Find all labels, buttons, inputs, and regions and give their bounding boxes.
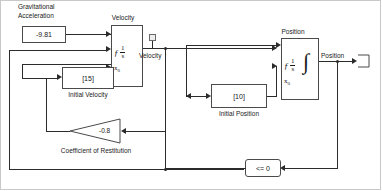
position-transfer-function: 1 s <box>290 58 296 73</box>
velocity-denominator: s <box>120 52 125 60</box>
gravity-constant-value: -9.81 <box>36 31 52 38</box>
wire-velocity-to-terminator <box>152 40 153 49</box>
gravity-block-label-line1: Gravitational <box>18 3 84 11</box>
initial-velocity-label: Initial Velocity <box>54 91 122 99</box>
wire-velocity-branch-down <box>165 48 166 170</box>
position-initial-condition-port-label: x0 <box>284 77 290 86</box>
arrowhead-velocity-in2 <box>106 46 111 52</box>
velocity-initial-condition-port-label: x0 <box>114 64 120 73</box>
position-outport-icon[interactable] <box>357 54 371 69</box>
velocity-terminator-icon[interactable] <box>149 34 156 41</box>
wire-position-top-input-riser <box>186 45 187 97</box>
gravity-block-label-line2: Acceleration <box>18 12 84 20</box>
velocity-transfer-function: 1 s <box>120 45 126 60</box>
wire-outer-left-loop-bottom <box>9 169 165 170</box>
coefficient-of-restitution-value: -0.8 <box>99 127 110 134</box>
simulink-diagram-canvas: Gravitational Acceleration -9.81 Velocit… <box>0 0 382 191</box>
wire-position-to-compare <box>285 168 338 169</box>
ground-compare-block[interactable]: <= 0 <box>245 159 281 177</box>
velocity-signal-label: Velocity <box>139 52 161 59</box>
wire-left-feedback-vertical <box>22 64 23 79</box>
velocity-numerator: 1 <box>120 45 126 52</box>
position-integrator-label: Position <box>269 28 317 36</box>
initial-position-value: [10] <box>233 93 245 100</box>
wire-gain-input <box>126 131 165 132</box>
position-denominator: s <box>290 65 295 73</box>
wire-gravity-to-velocity <box>66 34 111 35</box>
initial-position-label: Initial Position <box>203 110 275 118</box>
arrowhead-initial-velocity-in <box>57 74 62 80</box>
coefficient-of-restitution-gain-block[interactable] <box>69 118 121 144</box>
position-integral-curve-icon: ∫ <box>303 52 309 72</box>
wire-compare-output-to-bus <box>165 168 221 169</box>
wire-position-output <box>319 61 337 62</box>
position-integrator-symbol: ƒ 1 s <box>284 58 296 73</box>
ground-compare-value: <= 0 <box>256 165 270 172</box>
wire-to-initial-velocity <box>22 78 58 79</box>
velocity-integrator-label: Velocity <box>99 14 147 22</box>
wire-gain-output <box>46 131 70 132</box>
wire-initial-position-output <box>267 96 276 97</box>
wire-velocity-output <box>143 48 165 49</box>
wire-outer-left-loop-top <box>9 50 107 51</box>
coefficient-of-restitution-label: Coefficient of Restitution <box>37 147 155 155</box>
wire-bottom-feedback-bus <box>165 169 244 170</box>
velocity-integrator-symbol: ƒ 1 s <box>114 45 126 60</box>
initial-velocity-constant-block[interactable]: [15] <box>62 67 114 89</box>
gravity-constant-block[interactable]: -9.81 <box>22 26 66 43</box>
initial-position-constant-block[interactable]: [10] <box>211 84 267 108</box>
wire-initial-position-up <box>276 66 277 97</box>
wire-gain-output-up <box>46 78 47 132</box>
wire-outer-left-loop-vertical <box>9 50 10 170</box>
wire-velocity-to-position <box>165 48 276 49</box>
wire-compare-output <box>220 168 246 169</box>
wire-position-branch-down <box>337 61 338 168</box>
wire-left-feedback-top <box>22 64 111 65</box>
position-numerator: 1 <box>290 58 296 65</box>
position-signal-label: Position <box>321 52 344 59</box>
arrowhead-position-in3 <box>272 63 277 69</box>
initial-velocity-value: [15] <box>82 75 94 82</box>
wire-position-top-input <box>186 45 277 46</box>
